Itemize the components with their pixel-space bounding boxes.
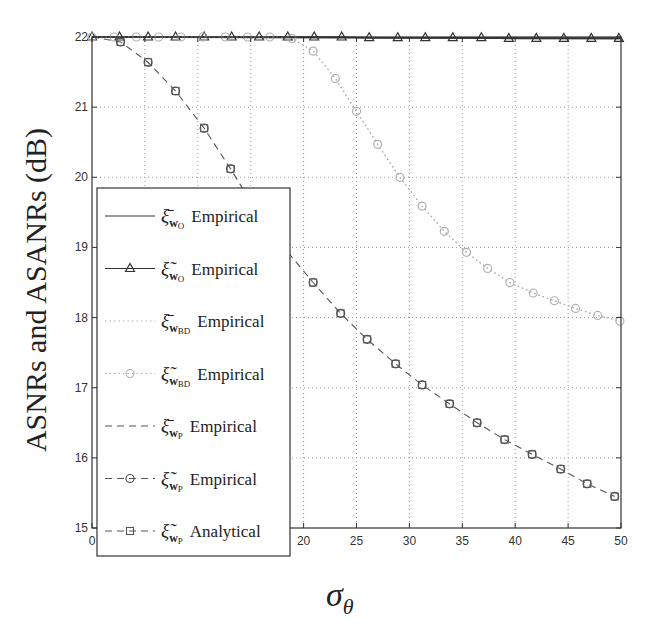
y-tick-label: 18 <box>75 311 89 325</box>
y-tick-label: 21 <box>75 100 89 114</box>
x-tick-label: 45 <box>561 534 575 548</box>
circle-marker <box>309 47 317 55</box>
x-tick-label: 20 <box>297 534 311 548</box>
triangle-marker <box>337 32 346 40</box>
circle-marker <box>392 360 400 368</box>
y-axis-label: ASNRs and ASANRs (dB) <box>19 128 53 452</box>
circle-marker <box>337 309 345 317</box>
y-tick-label: 17 <box>75 381 89 395</box>
y-tick-label: 19 <box>75 240 89 254</box>
x-tick-label: 25 <box>350 534 364 548</box>
x-axis-label: σθ <box>326 576 354 620</box>
circle-marker <box>583 480 591 488</box>
circle-marker <box>528 450 536 458</box>
x-axis-label-symbol: σ <box>326 576 343 613</box>
y-tick-label: 15 <box>75 521 89 535</box>
circle-marker <box>363 335 371 343</box>
circle-marker <box>572 304 580 312</box>
circle-marker <box>550 297 558 305</box>
circle-marker <box>463 248 471 256</box>
y-tick-label: 16 <box>75 451 89 465</box>
circle-marker <box>353 107 361 115</box>
plot-canvas: 051015202530354045501516171819202122 ξ̄w… <box>0 0 661 627</box>
y-tick-label: 22 <box>75 30 89 44</box>
x-tick-label: 30 <box>403 534 417 548</box>
circle-marker <box>418 381 426 389</box>
triangle-marker <box>255 32 264 40</box>
x-tick-label: 50 <box>614 534 628 548</box>
legend: ξ̄wOEmpiricalξ̃wOEmpiricalξ̄wBDEmpirical… <box>97 188 290 556</box>
circle-marker <box>331 74 339 82</box>
x-axis-label-subscript: θ <box>343 594 354 619</box>
x-tick-label: 40 <box>509 534 523 548</box>
figure: 051015202530354045501516171819202122 ξ̄w… <box>0 0 661 627</box>
y-tick-label: 20 <box>75 170 89 184</box>
circle-marker <box>396 173 404 181</box>
circle-marker <box>440 227 448 235</box>
circle-marker <box>529 289 537 297</box>
y-axis-label-container: ASNRs and ASANRs (dB) <box>6 0 66 627</box>
triangle-marker <box>310 32 319 40</box>
circle-marker <box>594 311 602 319</box>
x-tick-label: 0 <box>89 534 96 548</box>
x-tick-label: 35 <box>456 534 470 548</box>
